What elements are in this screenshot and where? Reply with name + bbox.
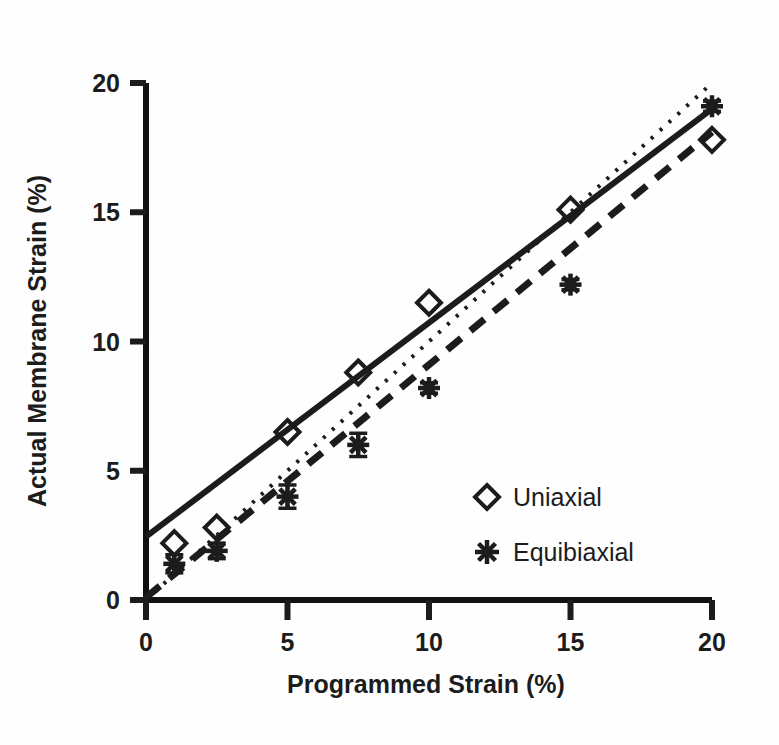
chart-figure: 05101520 05101520 Programmed Strain (%) … [0,0,779,745]
legend-asterisk-icon [475,540,499,564]
x-axis-title: Programmed Strain (%) [287,670,565,698]
x-tick-label-0: 0 [139,628,153,656]
y-tick-label-0: 0 [106,586,120,614]
x-tick-label-10: 10 [415,628,443,656]
scatter-plot: 05101520 05101520 Programmed Strain (%) … [0,0,779,745]
legend-label-equibiaxial: Equibiaxial [513,538,634,566]
y-tick-label-10: 10 [92,328,120,356]
point-equibiaxial-2 [277,486,299,508]
y-tick-label-5: 5 [106,457,120,485]
point-equibiaxial-5 [560,274,582,296]
x-tick-label-5: 5 [281,628,295,656]
legend-label-uniaxial: Uniaxial [513,483,602,511]
point-equibiaxial-3 [347,434,369,456]
point-equibiaxial-6 [701,95,723,117]
point-equibiaxial-4 [418,377,440,399]
point-equibiaxial-1 [206,540,228,562]
x-tick-label-15: 15 [557,628,585,656]
y-tick-label-15: 15 [92,198,120,226]
y-tick-label-20: 20 [92,69,120,97]
y-axis-title: Actual Membrane Strain (%) [23,175,51,507]
x-tick-label-20: 20 [698,628,726,656]
plot-background [0,0,779,745]
